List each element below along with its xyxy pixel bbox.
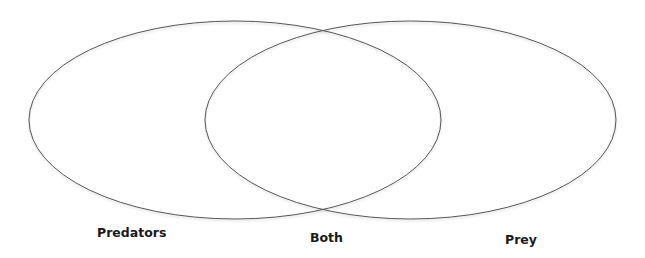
predators-ellipse (29, 21, 441, 219)
both-label: Both (310, 230, 343, 245)
prey-ellipse (205, 21, 616, 219)
venn-diagram (0, 0, 645, 258)
predators-label: Predators (97, 225, 166, 240)
prey-label: Prey (505, 232, 537, 247)
